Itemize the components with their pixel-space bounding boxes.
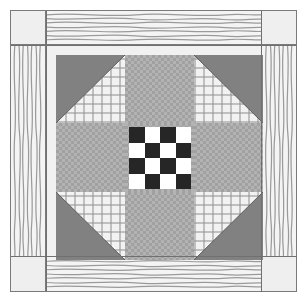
checker-square-r4-c2: [145, 174, 161, 190]
checker-square-r3-c3: [160, 158, 176, 174]
checker-square-r2-c1: [129, 143, 145, 159]
border-sash-top: [46, 10, 262, 45]
seam-line-bottom: [11, 256, 297, 257]
block-cell-center: [125, 123, 194, 192]
seam-line-right: [261, 11, 262, 292]
block-cell-bottom-left: [56, 192, 125, 260]
block-cell-top-center: [125, 55, 194, 123]
checker-square-r4-c3: [160, 174, 176, 190]
checker-square-r3-c2: [145, 158, 161, 174]
checker-square-r2-c2: [145, 143, 161, 159]
wood-grain-horizontal-icon: [47, 11, 261, 44]
checker-square-r1-c4: [176, 127, 192, 143]
quilt-outer-frame: [10, 10, 297, 292]
block-cell-middle-right: [194, 123, 263, 192]
checker-square-r4-c1: [129, 174, 145, 190]
quilt-canvas: [0, 0, 307, 301]
triangle-overlay-top-left: [56, 55, 125, 123]
border-corner-top-left: [10, 10, 46, 45]
block-cell-bottom-right: [194, 192, 263, 260]
seam-line-left: [46, 11, 47, 292]
wood-grain-vertical-icon: [262, 46, 296, 256]
border-corner-bottom-right: [261, 256, 297, 292]
block-cell-bottom-center: [125, 192, 194, 260]
checker-square-r4-c4: [176, 174, 192, 190]
checker-square-r1-c3: [160, 127, 176, 143]
border-sash-bottom: [46, 256, 262, 292]
block-cell-top-left: [56, 55, 125, 123]
block-cell-middle-left: [56, 123, 125, 192]
block-cell-top-right: [194, 55, 263, 123]
triangle-overlay-bottom-left: [56, 192, 125, 260]
border-sash-left: [10, 45, 46, 257]
checker-square-r2-c3: [160, 143, 176, 159]
border-corner-bottom-left: [10, 256, 46, 292]
triangle-overlay-top-right: [194, 55, 263, 123]
seam-line-top: [11, 45, 297, 46]
border-sash-right: [261, 45, 297, 257]
border-corner-top-right: [261, 10, 297, 45]
checker-square-r1-c1: [129, 127, 145, 143]
center-checkerboard: [129, 127, 191, 189]
wood-grain-horizontal-icon: [47, 257, 261, 291]
wood-grain-vertical-icon: [11, 46, 45, 256]
checker-square-r2-c4: [176, 143, 192, 159]
checker-square-r3-c1: [129, 158, 145, 174]
checker-square-r3-c4: [176, 158, 192, 174]
checker-square-r1-c2: [145, 127, 161, 143]
triangle-overlay-bottom-right: [194, 192, 263, 260]
quilt-inner-block: [56, 55, 263, 260]
